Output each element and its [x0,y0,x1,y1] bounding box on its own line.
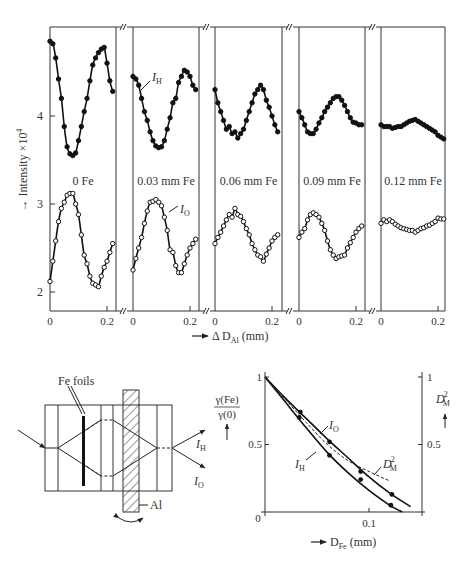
i_o-point [51,259,55,263]
i_h-point [340,98,344,102]
i_o-point [142,221,146,225]
i_h-point [238,131,242,135]
i_o-point [351,235,355,239]
bottom-xtick-01: 0.1 [362,517,376,529]
i_o-point [76,212,80,216]
svg-text:Δ DAl(mm): Δ DAl(mm) [212,329,268,345]
bottom-ytick-1: 1 [257,371,263,383]
i_h-point [270,114,274,118]
i_h-point [256,87,260,91]
i_h-point [264,98,268,102]
x-tick-0.2: 0.2 [100,315,114,327]
i_o-point [88,274,92,278]
i_o-point [261,259,265,263]
crystal-block [45,405,172,491]
fe-foils-label: Fe foils [58,374,95,388]
i_o-point [96,285,100,289]
i_o-point [244,226,248,230]
io-label: IO [193,474,204,490]
i_o-point [247,233,251,237]
i_h-point [91,63,95,67]
x-tick-0.2: 0.2 [431,315,445,327]
i_h-point [174,96,178,100]
i_h-point [171,101,175,105]
top-y-axis-label: → Intensity ×104 [15,129,30,212]
i_o-point [221,224,225,228]
i_o-point [194,237,198,241]
i_o-point [360,224,364,228]
i_o-point [224,218,228,222]
i_h-point [159,145,163,149]
i_h-point [73,151,77,155]
i_o-point [264,252,268,256]
i_h-point [219,109,223,113]
i_o-point [102,265,106,269]
ih-label: IH [195,437,206,453]
panel-label: 0.06 mm Fe [220,174,278,188]
x-tick-0.2: 0.2 [349,315,363,327]
i_h-point [320,116,324,120]
y-tick-4: 4 [37,109,43,123]
i_o-point [99,274,103,278]
panel-1: 00.20.03 mm Fe [130,23,215,327]
i_o-point [162,215,166,219]
i_o-point [191,241,195,245]
panel-label: 0 Fe [73,174,94,188]
i_h-point [328,101,332,105]
i_h-point [221,118,225,122]
i_h-point [134,77,138,81]
i_h-point [194,87,198,91]
data-point [297,415,302,420]
i_h-point [65,145,69,149]
data-point [327,453,332,458]
interferometer-schematic: IH IO Fe foils Al [18,374,206,522]
i_h-point [297,109,301,113]
label-io-top: IO [169,202,190,218]
bottom-right-ytick-05: 0.5 [427,438,441,450]
i_h-point [108,79,112,83]
i_h-point [88,79,92,83]
i_h-point [311,131,315,135]
bottom-label-ih: IH [294,452,316,473]
i_o-point [139,235,143,239]
i_o-point [348,241,352,245]
label-ih-top: IH [141,70,162,90]
i_h-point [442,137,446,141]
i_o-point [137,246,141,250]
i_o-point [325,239,329,243]
i_h-point [216,101,220,105]
i_o-point [317,215,321,219]
i_o-point [230,215,234,219]
bottom-left-y-label: γ(Fe) γ(0) [214,393,240,440]
y-tick-2: 2 [37,285,43,299]
panel-2: 00.20.06 mm Fe [212,23,299,327]
x-tick-0: 0 [47,315,53,327]
bottom-right-ytick-1: 1 [427,371,433,383]
i_h-point [303,123,307,127]
panel-label: 0.09 mm Fe [303,174,361,188]
i_h-point [79,124,83,128]
coherence-vs-fe-thickness-chart [261,372,425,516]
i_o-point [105,259,109,263]
i_o-point [134,256,138,260]
i_h-point [273,123,277,127]
svg-text:γ(0): γ(0) [217,408,236,421]
series-dm [265,377,390,481]
i_o-point [258,255,262,259]
panel-label: 0.12 mm Fe [384,174,442,188]
i_o-point [85,262,89,266]
i_o-point [54,239,58,243]
bottom-ytick-05: 0.5 [248,438,262,450]
i_h-point [267,105,271,109]
i_h-point [342,103,346,107]
i_o-point [108,250,112,254]
i_h-point [176,80,180,84]
i_h-point [227,124,231,128]
i_h-point [276,130,280,134]
al-plate [123,390,139,512]
i_h-point [241,127,245,131]
i_o-point [59,206,63,210]
i_h-point [168,116,172,120]
i_h-point [62,124,66,128]
i_h-point [236,136,240,140]
